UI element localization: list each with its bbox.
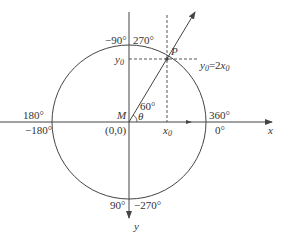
x0-label: x0 bbox=[162, 124, 172, 138]
label-180: 180° bbox=[23, 109, 44, 121]
label-minus-270: −270° bbox=[134, 199, 161, 211]
label-90: 90° bbox=[110, 199, 125, 211]
label-0: 0° bbox=[215, 124, 225, 136]
center-label-m: M bbox=[116, 109, 127, 121]
theta-label: θ bbox=[138, 110, 144, 122]
equation-label: y0=2x0 bbox=[199, 59, 230, 73]
point-p-marker bbox=[165, 57, 169, 61]
diagram-canvas: −90° 270° 180° −180° 360° 0° 90° −270° x… bbox=[0, 0, 284, 241]
angle-arc-theta bbox=[133, 115, 137, 122]
ray-line bbox=[129, 12, 195, 122]
x-axis-direction-arrow-icon bbox=[186, 120, 192, 124]
point-p-label: P bbox=[170, 45, 178, 57]
y-axis-label: y bbox=[133, 220, 139, 232]
label-360: 360° bbox=[209, 109, 230, 121]
y0-label: y0 bbox=[114, 53, 124, 67]
label-minus-180: −180° bbox=[25, 124, 52, 136]
label-270-top: 270° bbox=[133, 34, 154, 46]
origin-coord-label: (0,0) bbox=[105, 124, 126, 137]
label-minus-90: −90° bbox=[105, 34, 127, 46]
x-axis-label: x bbox=[267, 124, 273, 136]
